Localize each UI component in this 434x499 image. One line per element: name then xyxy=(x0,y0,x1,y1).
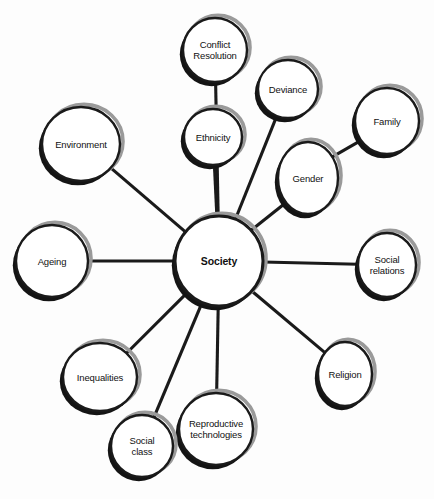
diagram-canvas xyxy=(0,0,434,499)
node-social-class[interactable] xyxy=(111,415,173,477)
node-ethnicity[interactable] xyxy=(184,109,242,165)
node-reproductive-technologies[interactable] xyxy=(179,393,253,465)
edge-society-to-gender xyxy=(251,203,286,231)
node-deviance[interactable] xyxy=(258,60,318,118)
node-ageing[interactable] xyxy=(16,225,88,297)
node-environment[interactable] xyxy=(42,107,120,181)
edge-society-to-inequalities xyxy=(126,292,187,353)
edge-society-to-social-relations xyxy=(263,262,358,264)
node-conflict-resolution[interactable] xyxy=(183,18,247,82)
edge-society-to-religion xyxy=(252,291,325,353)
node-family[interactable] xyxy=(355,88,419,154)
edge-society-to-environment xyxy=(111,168,186,232)
node-social-relations[interactable] xyxy=(358,233,416,297)
edge-society-to-reproductive-technologies xyxy=(217,306,219,393)
node-society[interactable] xyxy=(175,216,263,306)
node-inequalities[interactable] xyxy=(63,343,137,411)
node-religion[interactable] xyxy=(318,342,372,406)
society-mind-map-diagram: Conflict ResolutionDevianceFamilyEthnici… xyxy=(0,0,434,499)
node-gender[interactable] xyxy=(278,142,338,214)
